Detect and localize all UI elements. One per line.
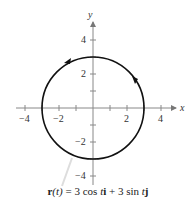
direction-arrow-icon [64,58,71,64]
x-axis-label: x [179,102,185,113]
x-tick-label-2: 2 [124,113,129,124]
y-tick-label-neg4: −4 [75,170,86,181]
y-tick-label-2: 2 [81,68,86,79]
caption-eq: = 3 cos [63,185,100,197]
x-tick-label-4: 4 [158,113,163,124]
caption-j: j [145,185,149,197]
caption-t-arg: (t) [52,185,62,197]
caption-plus: + 3 sin [106,185,142,197]
parametric-plot: −4 −2 2 4 4 2 −2 −4 x y [0,0,196,208]
x-tick-label-neg2: −2 [53,113,64,124]
y-axis-label: y [87,9,93,20]
y-tick-label-neg2: −2 [75,136,86,147]
x-tick-label-neg4: −4 [19,113,30,124]
y-tick-label-4: 4 [81,34,86,45]
caption-leader-line [62,158,72,186]
equation-caption: r(t) = 3 cos ti + 3 sin tj [0,185,196,197]
